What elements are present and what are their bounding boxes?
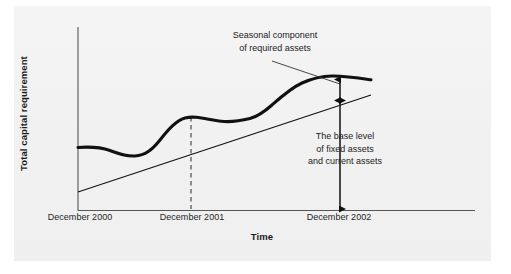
- annotation-base-level: The base level of fixed assets and curre…: [270, 130, 420, 168]
- y-axis-title: Total capital requirement: [18, 29, 29, 199]
- annotation-seasonal-line-2: of required assets: [200, 42, 350, 55]
- annotation-base-line-3: and current assets: [270, 155, 420, 168]
- x-tick-label-december-2002: December 2002: [291, 212, 387, 222]
- annotation-base-line-2: of fixed assets: [270, 143, 420, 156]
- figure-canvas: Total capital requirement Time December …: [0, 0, 511, 274]
- annotation-seasonal-component: Seasonal component of required assets: [200, 29, 350, 54]
- annotation-base-line-1: The base level: [270, 130, 420, 143]
- x-tick-label-december-2000: December 2000: [32, 212, 128, 222]
- annotation-seasonal-line-1: Seasonal component: [200, 29, 350, 42]
- x-tick-label-december-2001: December 2001: [144, 212, 240, 222]
- x-axis-title: Time: [232, 231, 292, 242]
